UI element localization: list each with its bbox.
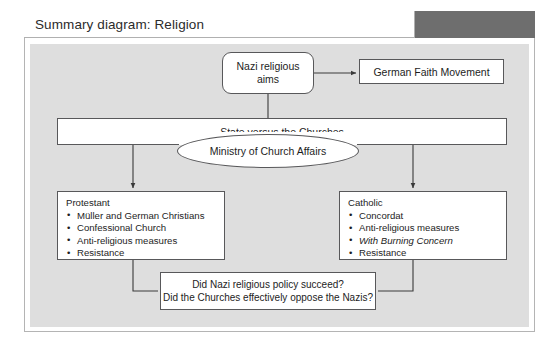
diagram-page: Summary diagram: Religion [0,0,559,351]
node-ministry-of-church-affairs[interactable]: Ministry of Church Affairs [177,134,359,168]
node-catholic-heading: Catholic [348,197,500,209]
list-item: Müller and German Christians [77,210,218,222]
header-accent-block [415,11,535,38]
header-title-box: Summary diagram: Religion [24,11,415,38]
list-item: Concordat [359,210,500,222]
list-item: Anti-religious measures [77,235,218,247]
node-german-faith-movement[interactable]: German Faith Movement [359,59,504,84]
node-protestant-list: Müller and German Christians Confessiona… [65,210,218,260]
node-protestant-heading: Protestant [66,197,218,209]
edge-catholic-to-questions [378,260,413,291]
node-ministry-label: Ministry of Church Affairs [210,145,327,157]
node-aims-line1: Nazi religious [236,60,299,72]
list-item: Resistance [77,247,218,259]
node-aims-label: Nazi religious aims [236,60,299,86]
node-nazi-religious-aims[interactable]: Nazi religious aims [222,52,314,94]
question-line2: Did the Churches effectively oppose the … [163,292,373,303]
node-aims-line2: aims [257,73,279,85]
node-question-label: Did Nazi religious policy succeed? Did t… [163,278,373,305]
question-line1: Did Nazi religious policy succeed? [192,279,344,290]
node-protestant[interactable]: Protestant Müller and German Christians … [57,191,225,260]
node-catholic-list: Concordat Anti-religious measures With B… [347,210,500,260]
figure-header: Summary diagram: Religion [24,11,535,38]
list-item: Confessional Church [77,222,218,234]
node-catholic[interactable]: Catholic Concordat Anti-religious measur… [339,191,507,260]
diagram-canvas: Nazi religious aims German Faith Movemen… [30,44,529,327]
node-gfm-label: German Faith Movement [373,66,489,78]
list-item: Resistance [359,247,500,259]
list-item: Anti-religious measures [359,222,500,234]
page-title: Summary diagram: Religion [24,17,204,32]
node-evaluation-questions[interactable]: Did Nazi religious policy succeed? Did t… [160,272,376,310]
list-item: With Burning Concern [359,235,500,247]
edge-protestant-to-questions [133,260,158,291]
